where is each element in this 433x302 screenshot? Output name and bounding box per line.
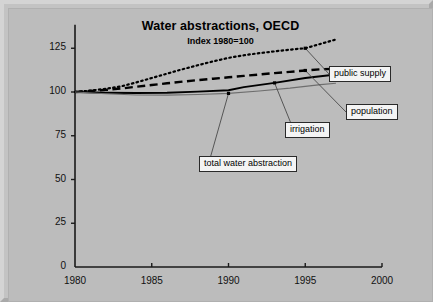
y-tick-label: 100 xyxy=(32,85,66,96)
x-tick-label: 1980 xyxy=(53,275,97,286)
leader-lines xyxy=(211,48,346,156)
callout-leader-line xyxy=(211,93,229,156)
y-tick-label: 0 xyxy=(32,260,66,271)
x-tick-label: 1985 xyxy=(130,275,174,286)
series-line xyxy=(75,40,336,93)
y-tick-label: 75 xyxy=(32,129,66,140)
y-tick-label: 50 xyxy=(32,173,66,184)
window-frame: Water abstractions, OECD Index 1980=100 … xyxy=(0,0,433,302)
data-point-marker xyxy=(304,69,307,72)
data-point-marker xyxy=(304,47,307,50)
x-tick-label: 1995 xyxy=(283,275,327,286)
series-callout-label: irrigation xyxy=(285,122,330,138)
y-tick-label: 25 xyxy=(32,216,66,227)
data-series xyxy=(75,40,336,96)
chart-canvas: Water abstractions, OECD Index 1980=100 … xyxy=(8,8,433,302)
series-line xyxy=(75,69,336,92)
x-tick-label: 1990 xyxy=(207,275,251,286)
data-point-marker xyxy=(227,92,230,95)
axes xyxy=(71,25,382,267)
series-callout-label: population xyxy=(346,104,398,120)
series-callout-label: total water abstraction xyxy=(199,156,297,172)
data-point-marker xyxy=(273,81,276,84)
y-tick-label: 125 xyxy=(32,41,66,52)
series-callout-label: public supply xyxy=(329,66,391,82)
x-tick-label: 2000 xyxy=(360,275,404,286)
